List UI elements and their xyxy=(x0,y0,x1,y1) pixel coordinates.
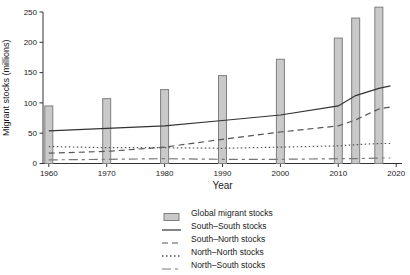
svg-text:200: 200 xyxy=(24,38,38,47)
svg-text:250: 250 xyxy=(24,8,38,17)
legend-label: North–South stocks xyxy=(191,260,265,270)
bar-2000 xyxy=(276,59,284,163)
svg-text:50: 50 xyxy=(28,129,37,138)
legend-item-south-north: South–North stocks xyxy=(160,234,273,244)
bar-1970 xyxy=(103,99,111,164)
solid-line-swatch-icon xyxy=(160,221,184,231)
bar-swatch-icon xyxy=(160,208,184,218)
chart-legend: Global migrant stocks South–South stocks… xyxy=(160,208,273,270)
legend-item-north-south: North–South stocks xyxy=(160,260,273,270)
svg-text:2000: 2000 xyxy=(272,169,290,178)
twodash-line-swatch-icon xyxy=(160,260,184,270)
svg-text:1970: 1970 xyxy=(98,169,116,178)
bar-1990 xyxy=(219,76,227,164)
legend-label: Global migrant stocks xyxy=(191,208,273,218)
legend-label: South–South stocks xyxy=(191,221,267,231)
svg-text:150: 150 xyxy=(24,68,38,77)
svg-text:Year: Year xyxy=(212,180,233,191)
bar-2013 xyxy=(352,18,360,163)
legend-item-north-north: North–North stocks xyxy=(160,247,273,257)
svg-text:Migrant stocks (millions): Migrant stocks (millions) xyxy=(1,39,11,136)
svg-text:0: 0 xyxy=(33,159,38,168)
svg-text:2010: 2010 xyxy=(329,169,347,178)
legend-item-global: Global migrant stocks xyxy=(160,208,273,218)
svg-text:1990: 1990 xyxy=(214,169,232,178)
dotted-line-swatch-icon xyxy=(160,247,184,257)
bar-2010 xyxy=(334,38,342,163)
bar-1960 xyxy=(45,106,53,164)
legend-label: South–North stocks xyxy=(191,234,265,244)
migrant-stocks-figure: 0501001502002501960197019801990200020102… xyxy=(0,0,410,275)
legend-label: North–North stocks xyxy=(191,247,264,257)
migrant-stocks-chart: 0501001502002501960197019801990200020102… xyxy=(0,0,410,200)
bar-2017 xyxy=(375,7,383,163)
dashed-line-swatch-icon xyxy=(160,234,184,244)
svg-text:2020: 2020 xyxy=(387,169,405,178)
svg-text:1980: 1980 xyxy=(156,169,174,178)
svg-text:1960: 1960 xyxy=(40,169,58,178)
svg-text:100: 100 xyxy=(24,99,38,108)
legend-item-south-south: South–South stocks xyxy=(160,221,273,231)
